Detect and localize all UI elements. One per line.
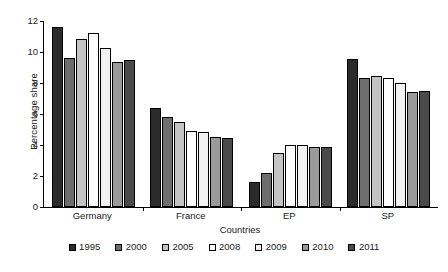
bar <box>407 92 418 207</box>
legend-swatch-icon <box>162 244 169 251</box>
legend-swatch-icon <box>209 244 216 251</box>
legend-swatch-icon <box>302 244 309 251</box>
y-tick-label: 12 <box>27 15 38 27</box>
bar <box>124 60 135 207</box>
bar <box>112 62 123 207</box>
bar-group <box>340 21 439 207</box>
bar <box>150 108 161 207</box>
y-tick-label: 2 <box>33 170 38 182</box>
legend-item[interactable]: 2000 <box>115 242 147 252</box>
legend-swatch-icon <box>69 244 76 251</box>
bar <box>273 153 284 207</box>
legend-swatch-icon <box>255 244 262 251</box>
bar <box>222 138 233 207</box>
bar <box>210 137 221 207</box>
bar <box>76 39 87 207</box>
legend-swatch-icon <box>115 244 122 251</box>
bar <box>64 58 75 207</box>
bar-group <box>143 21 242 207</box>
legend-label: 2009 <box>266 242 287 252</box>
bar <box>383 78 394 207</box>
bar <box>162 117 173 207</box>
legend-label: 1995 <box>79 242 100 252</box>
x-axis-tick-labels: GermanyFranceEPSP <box>43 210 437 221</box>
legend-label: 2000 <box>126 242 147 252</box>
bar <box>309 147 320 207</box>
x-axis-title: Countries <box>43 224 437 235</box>
x-tick-label: SP <box>339 210 438 221</box>
legend-label: 2011 <box>359 242 379 252</box>
bar <box>88 33 99 207</box>
bar-group <box>44 21 143 207</box>
bar <box>261 173 272 207</box>
bar <box>198 132 209 207</box>
bar <box>359 78 370 207</box>
bar <box>186 131 197 207</box>
legend-item[interactable]: 1995 <box>69 242 101 252</box>
y-tick-label: 8 <box>33 77 38 89</box>
x-tick-label: Germany <box>43 210 142 221</box>
x-tick-label: EP <box>240 210 339 221</box>
y-tick-label: 4 <box>33 139 38 151</box>
bar-chart-figure: Percentage share 024681012 GermanyFrance… <box>0 0 448 272</box>
bar <box>297 145 308 207</box>
bar <box>100 48 111 207</box>
y-tick-label: 10 <box>27 46 38 58</box>
legend-label: 2005 <box>172 242 193 252</box>
legend-item[interactable]: 2009 <box>255 242 287 252</box>
legend-item[interactable]: 2008 <box>209 242 241 252</box>
legend-label: 2010 <box>312 242 333 252</box>
bar <box>371 76 382 207</box>
y-tick-label: 6 <box>33 108 38 120</box>
plot-area: 024681012 <box>43 21 438 208</box>
chart-legend: 1995200020052008200920102011 <box>0 242 448 252</box>
legend-item[interactable]: 2011 <box>348 242 379 252</box>
legend-item[interactable]: 2005 <box>162 242 194 252</box>
bar <box>419 91 430 207</box>
bar <box>174 122 185 207</box>
legend-label: 2008 <box>219 242 240 252</box>
legend-item[interactable]: 2010 <box>302 242 334 252</box>
bar <box>347 59 358 207</box>
bar-group <box>241 21 340 207</box>
bar <box>52 27 63 207</box>
x-tick-label: France <box>142 210 241 221</box>
bar <box>395 83 406 207</box>
y-tick-label: 0 <box>33 201 38 213</box>
legend-swatch-icon <box>348 244 355 251</box>
bar <box>321 147 332 207</box>
bar-groups <box>44 21 438 207</box>
bar <box>285 145 296 207</box>
bar <box>249 182 260 207</box>
